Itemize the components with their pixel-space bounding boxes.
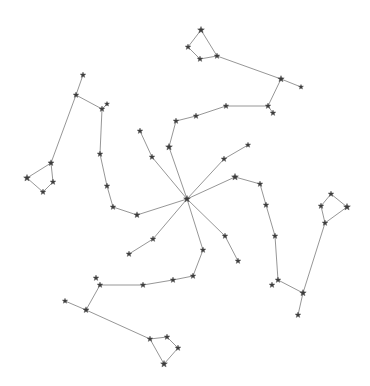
edge-line [86,285,100,310]
edge-line [76,95,102,109]
edge-line [196,106,226,116]
star-icon [235,258,241,263]
edge-line [100,154,107,186]
edge-line [113,207,137,215]
constellation-canvas: Constellation network [0,0,370,386]
edge-line [298,293,303,315]
edge-line [331,194,347,207]
edge-line [303,223,325,293]
star-icon [322,220,328,225]
star-icon [193,113,199,118]
edge-line [137,199,187,215]
star-icon [214,53,220,58]
star-icon [295,312,301,317]
edge-line [325,207,347,223]
edge-line [224,145,248,159]
edge-line [140,131,152,157]
star-icon [137,128,143,133]
edge-line [176,116,196,121]
edge-line [193,250,203,276]
star-icon [170,277,176,282]
star-icon [223,103,229,108]
edge-line [143,280,173,285]
edge-line [129,239,153,254]
star-icon [110,204,116,209]
edge-line [76,75,83,95]
star-icon [265,103,271,108]
edge-line [27,178,43,192]
star-icon [200,247,206,252]
star-icon [134,212,140,218]
star-icon [269,282,275,287]
edge-line [278,280,303,293]
edge-line [260,184,266,205]
edge-line [169,147,187,199]
edge-line [164,348,178,364]
star-icon [278,76,284,82]
star-icon [275,277,281,282]
edge-line [281,79,301,87]
edge-line [201,30,217,56]
star-icon [73,92,79,97]
star-icon [62,298,67,303]
star-icon [232,173,239,180]
constellation-graph [0,0,370,386]
edge-line [65,301,86,310]
edge-line [100,109,102,154]
edge-line [150,339,164,364]
star-icon [263,202,269,207]
star-icon [83,307,89,313]
edge-line [153,199,187,239]
edge-line [321,206,325,223]
star-icon [97,282,103,287]
edge-line [187,159,224,199]
edge-line [275,236,278,280]
star-icon [140,282,146,287]
edge-line [266,205,275,236]
star-icon [166,143,173,150]
edge-line [152,157,187,199]
edge-line [235,177,260,184]
edge-line [27,163,51,178]
star-icon [299,84,304,89]
edge-line [268,79,281,106]
star-layer [24,26,351,367]
edge-line [187,177,235,199]
star-icon [190,273,196,278]
star-icon [80,72,86,77]
edge-line [225,236,238,261]
edge-line [169,121,176,147]
star-icon [147,336,153,341]
edge-line [51,163,53,182]
star-icon [126,251,132,256]
star-icon [198,26,205,33]
edge-line [51,95,76,163]
edge-line [217,56,281,79]
star-icon [149,154,155,159]
edge-line [173,276,193,280]
star-icon [93,275,99,280]
edge-line [107,186,113,207]
edge-line [86,310,150,339]
